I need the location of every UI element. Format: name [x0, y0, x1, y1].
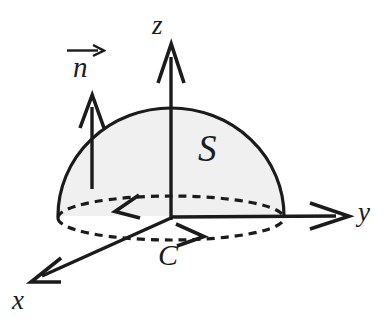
y-axis-label: y — [358, 199, 370, 226]
diagram-svg — [0, 0, 387, 325]
normal-vector-label: n — [66, 44, 108, 90]
boundary-curve-label-C: C — [158, 240, 178, 270]
surface-label-S: S — [198, 130, 217, 167]
y-axis-line — [171, 216, 336, 217]
boundary-curve-front-arrowhead — [176, 224, 204, 246]
z-axis-label: z — [152, 12, 163, 39]
boundary-curve-front-half — [58, 218, 284, 240]
figure-canvas: z y x S C n — [0, 0, 387, 325]
normal-vector-letter: n — [73, 53, 88, 82]
x-axis-label: x — [12, 287, 24, 314]
x-axis-line — [42, 218, 171, 276]
